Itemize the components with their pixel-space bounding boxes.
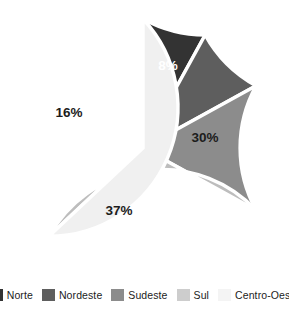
legend-item-sul[interactable]: Sul (177, 289, 209, 301)
pie-slice-group (49, 19, 256, 236)
pie-slice-value-norte: 8% (158, 58, 178, 73)
pie-svg: 8%9%16%30%37% (0, 0, 289, 276)
legend-item-norte[interactable]: Norte (0, 289, 33, 301)
pie-chart-figure: 8%9%16%30%37% NorteNordesteSudesteSulCen… (0, 0, 289, 314)
legend-swatch-icon-sudeste (111, 289, 124, 301)
legend-swatch-icon-norte (0, 289, 3, 301)
pie-plot-area: 8%9%16%30%37% (0, 0, 289, 276)
legend-swatch-icon-sul (177, 289, 190, 301)
chart-legend: NorteNordesteSudesteSulCentro-Oeste (0, 284, 289, 306)
pie-slice-value-nordeste: 9% (107, 57, 127, 72)
legend-swatch-icon-nordeste (42, 289, 55, 301)
legend-label: Centro-Oeste (235, 289, 289, 301)
legend-label: Sudeste (128, 289, 167, 301)
legend-label: Nordeste (59, 289, 102, 301)
pie-slice-value-sudeste: 16% (55, 105, 82, 120)
legend-swatch-icon-centro-oeste (218, 289, 231, 301)
pie-slice-value-centro-oeste: 37% (105, 203, 132, 218)
legend-label: Norte (7, 289, 33, 301)
legend-item-centro-oeste[interactable]: Centro-Oeste (218, 289, 289, 301)
legend-label: Sul (194, 289, 209, 301)
legend-item-nordeste[interactable]: Nordeste (42, 289, 102, 301)
pie-slice-value-sul: 30% (191, 130, 218, 145)
legend-item-sudeste[interactable]: Sudeste (111, 289, 167, 301)
